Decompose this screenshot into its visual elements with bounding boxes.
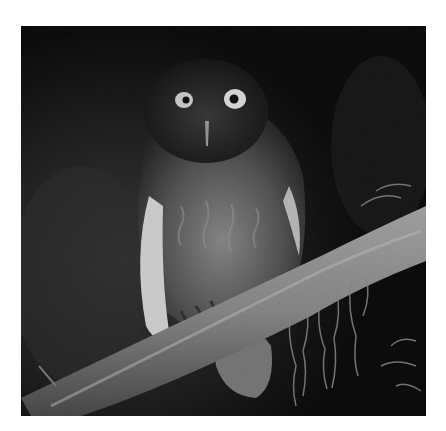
owl-photo-illustration — [21, 26, 426, 416]
owl-photo — [21, 26, 426, 416]
